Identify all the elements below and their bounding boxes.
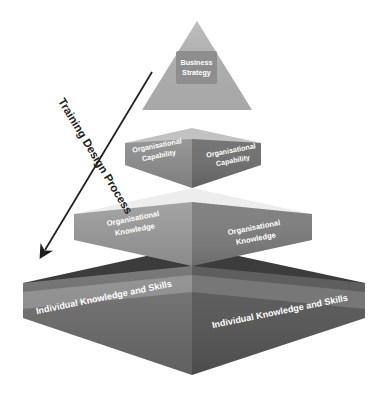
tier-organisational-capability[interactable]: Organisational Capability Organisational… [125,128,261,188]
process-arrow-label: Training Design Process [56,96,135,216]
pyramid-graphic: Individual Knowledge and Skills Individu… [0,0,389,396]
training-design-pyramid-diagram: Individual Knowledge and Skills Individu… [0,0,389,396]
apex-label-line2: Strategy [182,68,211,77]
tier-organisational-knowledge[interactable]: Organisational Knowledge Organisational … [74,188,312,266]
apex-label-line1: Business [181,58,213,67]
tier-business-strategy[interactable]: Business Strategy [142,21,252,110]
